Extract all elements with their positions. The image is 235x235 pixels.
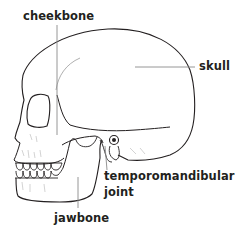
temporal-line [56,58,80,90]
cranium-outline [23,29,195,161]
label-jawbone: jawbone [54,212,109,225]
eye-socket [27,94,50,127]
skull-illustration [0,0,235,235]
mandible-outline [16,140,102,202]
skull-diagram: cheekbone skull temporomandibular joint … [0,0,235,235]
label-cheekbone: cheekbone [23,10,94,23]
maxilla-outline [14,143,64,164]
mastoid-process [109,146,119,160]
label-skull: skull [199,60,230,73]
label-tmj-line1: temporomandibular [104,170,235,183]
cranial-base-line [57,95,170,131]
ear-canal-center [112,138,116,142]
label-tmj-line2: joint [104,186,134,199]
forehead-outline [15,75,24,143]
